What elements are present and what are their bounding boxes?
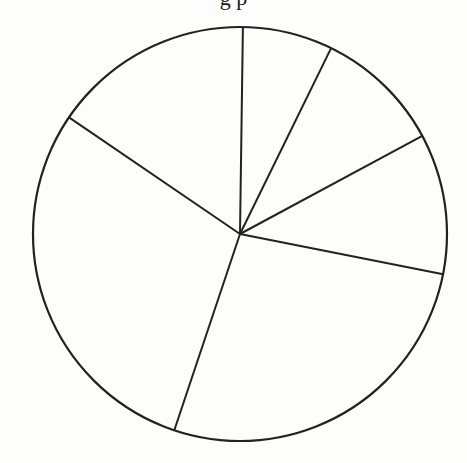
slice-divider-2 xyxy=(240,48,331,234)
pie-chart xyxy=(0,0,467,463)
page-background: g p xyxy=(0,0,467,463)
slice-divider-4 xyxy=(240,234,443,274)
slice-divider-3 xyxy=(240,136,422,234)
slice-divider-6 xyxy=(69,117,240,234)
slice-divider-1 xyxy=(240,27,243,234)
slice-divider-5 xyxy=(174,234,240,430)
